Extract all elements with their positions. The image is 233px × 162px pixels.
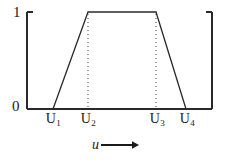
right-arrow-glyph xyxy=(101,140,141,150)
x-tick-label-u1-sub: 1 xyxy=(56,118,61,128)
right-arrow-icon xyxy=(101,139,141,153)
x-tick-label-u2-base: U xyxy=(81,111,91,126)
trapezoidal-membership-chart: 1 0 U1 U2 U3 U4 u xyxy=(0,0,233,162)
x-tick-label-u3-sub: 3 xyxy=(160,118,165,128)
x-tick-label-u2-sub: 2 xyxy=(91,118,96,128)
membership-function-curve xyxy=(53,12,186,109)
x-tick-label-u3: U3 xyxy=(150,112,165,126)
x-tick-label-u1: U1 xyxy=(46,112,61,126)
x-tick-label-u4-sub: 4 xyxy=(190,118,195,128)
x-tick-label-u3-base: U xyxy=(150,111,160,126)
x-tick-label-u1-base: U xyxy=(46,111,56,126)
x-tick-label-u4: U4 xyxy=(180,112,195,126)
x-axis-variable-symbol: u xyxy=(92,137,99,152)
x-tick-label-u4-base: U xyxy=(180,111,190,126)
x-tick-label-u2: U2 xyxy=(81,112,96,126)
y-axis-label-one: 1 xyxy=(13,5,21,20)
x-axis-caption: u xyxy=(0,138,233,153)
y-axis-label-zero: 0 xyxy=(12,99,20,114)
